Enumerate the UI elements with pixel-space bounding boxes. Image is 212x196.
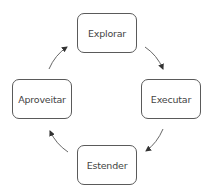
arrow-aproveitar-to-explorar (49, 47, 67, 69)
node-explorar: Explorar (77, 13, 137, 53)
node-label-estender: Estender (87, 160, 128, 171)
node-aproveitar: Aproveitar (12, 79, 72, 119)
node-label-executar: Executar (151, 94, 191, 105)
node-executar: Executar (141, 79, 201, 119)
arrow-estender-to-aproveitar (50, 131, 68, 152)
node-label-explorar: Explorar (88, 28, 126, 39)
arrow-explorar-to-executar (145, 47, 163, 69)
arrow-executar-to-estender (146, 129, 163, 151)
node-estender: Estender (77, 145, 137, 185)
node-label-aproveitar: Aproveitar (18, 94, 66, 105)
